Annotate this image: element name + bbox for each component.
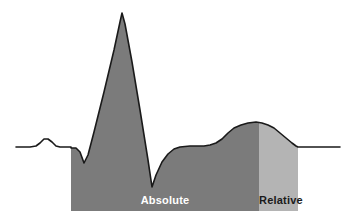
ecg-chart bbox=[0, 0, 352, 222]
absolute-region-label: Absolute bbox=[71, 195, 259, 206]
relative-region-label: Relative bbox=[259, 195, 298, 206]
ecg-refractory-diagram: Absolute Relative bbox=[0, 0, 352, 222]
